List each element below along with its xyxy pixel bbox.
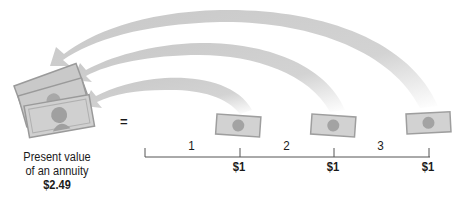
present-value-line2: of an annuity [12,164,102,178]
dollar-bill-icon-year-1 [216,114,261,137]
discount-arrow-year-1 [84,78,252,114]
present-value-amount: $2.49 [12,178,102,192]
payment-label-1: $1 [233,160,246,174]
payment-label-3: $1 [422,160,435,174]
period-label-1: 1 [188,138,195,153]
period-label-3: 3 [377,138,384,153]
present-value-line1: Present value [12,150,102,164]
period-label-2: 2 [283,138,290,153]
dollar-bill-icon-year-2 [311,114,356,137]
discount-arrow-year-2 [73,43,345,112]
dollar-bill-icon-year-3 [406,112,451,134]
equals-sign: = [120,114,128,129]
present-value-label: Present value of an annuity $2.49 [12,150,102,192]
payment-label-2: $1 [327,160,340,174]
annuity-diagram: Present value of an annuity $2.49 = 1 2 … [0,0,464,197]
